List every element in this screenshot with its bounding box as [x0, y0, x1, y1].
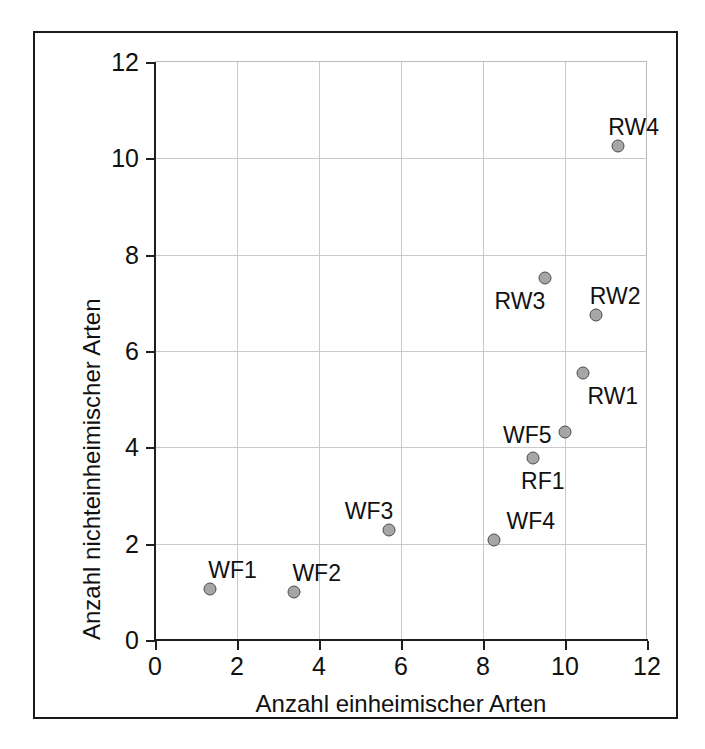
x-tick-mark [647, 641, 649, 650]
data-point [559, 425, 572, 438]
data-point-label: RF1 [521, 470, 564, 493]
y-tick-mark [146, 255, 155, 257]
y-tick-mark [146, 640, 155, 642]
data-point [382, 524, 395, 537]
data-point-label: WF5 [503, 424, 552, 447]
x-tick-mark [565, 641, 567, 650]
data-point-label: RW2 [590, 285, 641, 308]
gridline-horizontal [155, 544, 647, 545]
x-tick-mark [483, 641, 485, 650]
x-tick-label: 10 [551, 654, 579, 679]
plot-area: WF1WF2WF3WF4WF5RF1RW1RW2RW3RW4 [155, 62, 647, 640]
data-point-label: WF2 [292, 562, 341, 585]
data-point-label: WF1 [208, 559, 257, 582]
y-tick-label: 2 [125, 531, 139, 556]
data-point [527, 451, 540, 464]
x-tick-label: 6 [394, 654, 408, 679]
x-tick-mark [319, 641, 321, 650]
data-point [589, 308, 602, 321]
data-point-label: RW3 [495, 290, 546, 313]
gridline-horizontal [155, 351, 647, 352]
y-tick-mark [146, 447, 155, 449]
x-tick-label: 12 [633, 654, 661, 679]
x-tick-label: 0 [148, 654, 162, 679]
data-point [577, 366, 590, 379]
data-point [538, 271, 551, 284]
gridline-horizontal [155, 255, 647, 256]
x-tick-label: 2 [230, 654, 244, 679]
data-point-label: WF3 [345, 500, 394, 523]
figure: WF1WF2WF3WF4WF5RF1RW1RW2RW3RW4 024681012… [0, 0, 705, 749]
data-point [612, 140, 625, 153]
y-tick-label: 8 [125, 242, 139, 267]
x-tick-mark [401, 641, 403, 650]
y-tick-mark [146, 158, 155, 160]
y-axis-label: Anzahl nichteinheimischer Arten [78, 298, 106, 640]
data-point [488, 534, 501, 547]
y-tick-mark [146, 62, 155, 64]
data-point-label: RW4 [608, 116, 659, 139]
x-tick-label: 8 [476, 654, 490, 679]
data-point-label: WF4 [506, 510, 555, 533]
data-point-label: RW1 [587, 385, 638, 408]
x-tick-mark [155, 641, 157, 650]
gridline-horizontal [155, 158, 647, 159]
y-tick-label: 12 [111, 50, 139, 75]
x-tick-mark [237, 641, 239, 650]
y-tick-mark [146, 544, 155, 546]
y-tick-label: 6 [125, 339, 139, 364]
y-tick-label: 4 [125, 435, 139, 460]
gridline-horizontal [155, 447, 647, 448]
y-tick-mark [146, 351, 155, 353]
y-tick-label: 0 [125, 628, 139, 653]
x-axis-label: Anzahl einheimischer Arten [155, 690, 647, 718]
data-point [204, 583, 217, 596]
x-tick-label: 4 [312, 654, 326, 679]
data-point [288, 585, 301, 598]
y-tick-label: 10 [111, 146, 139, 171]
